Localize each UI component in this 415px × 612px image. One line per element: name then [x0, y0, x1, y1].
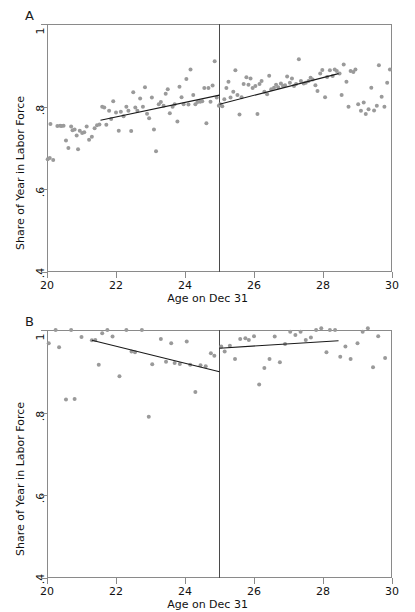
data-point [189, 67, 193, 71]
panel-a-data-layer [0, 0, 415, 306]
data-point [186, 103, 190, 107]
data-point [262, 366, 266, 370]
data-point [361, 330, 365, 334]
data-point [328, 328, 332, 332]
data-point [185, 340, 189, 344]
data-point [80, 335, 84, 339]
data-point [124, 105, 128, 109]
data-point [242, 82, 246, 86]
data-point [97, 363, 101, 367]
data-point [268, 357, 272, 361]
data-point [62, 124, 66, 128]
data-point [117, 374, 121, 378]
data-point [212, 354, 216, 358]
data-point [100, 331, 104, 335]
data-point [309, 335, 313, 339]
data-point [356, 102, 360, 106]
data-point [375, 104, 379, 108]
data-point [159, 100, 163, 104]
data-point [347, 105, 351, 109]
data-point [343, 345, 347, 349]
data-point [180, 95, 184, 99]
data-point [105, 328, 109, 332]
data-point [164, 360, 168, 364]
data-point [107, 109, 111, 113]
data-point [177, 85, 181, 89]
data-point [90, 135, 94, 139]
data-point [224, 86, 228, 90]
data-point [253, 84, 257, 88]
data-point [297, 57, 301, 61]
data-point [353, 67, 357, 71]
data-point [293, 333, 297, 337]
data-point [235, 93, 239, 97]
data-point [102, 105, 106, 109]
data-point [328, 68, 332, 72]
data-point [66, 146, 70, 150]
data-point [204, 121, 208, 125]
data-point [257, 383, 261, 387]
data-point [323, 95, 327, 99]
data-point [48, 156, 52, 160]
data-point [51, 158, 55, 162]
data-point [233, 357, 237, 361]
data-point [369, 86, 373, 90]
data-point [124, 328, 128, 332]
data-point [342, 63, 346, 67]
data-point [319, 326, 323, 330]
data-point [140, 328, 144, 332]
data-point [202, 86, 206, 90]
data-point [64, 139, 68, 143]
data-point [252, 334, 256, 338]
data-point [133, 105, 137, 109]
data-point [290, 77, 294, 81]
data-point [82, 130, 86, 134]
data-point [260, 79, 264, 83]
data-point [169, 341, 173, 345]
data-point [168, 111, 172, 115]
data-point [97, 122, 101, 126]
data-point [138, 96, 142, 100]
data-point [54, 328, 58, 332]
regression-line-left [100, 95, 219, 120]
data-point [304, 338, 308, 342]
data-point [211, 84, 215, 88]
data-point [223, 349, 227, 353]
data-point [150, 362, 154, 366]
data-point [364, 112, 368, 116]
data-point [48, 122, 52, 126]
data-point [191, 93, 195, 97]
data-point [47, 341, 51, 345]
data-point [64, 397, 68, 401]
data-point [247, 338, 251, 342]
data-point [383, 356, 387, 360]
data-point [349, 357, 353, 361]
regression-line-right [220, 74, 339, 105]
data-point [231, 90, 235, 94]
data-point [382, 105, 386, 109]
data-point [200, 99, 204, 103]
data-point [285, 74, 289, 78]
data-point [76, 147, 80, 151]
data-point [388, 67, 392, 71]
data-point [87, 138, 91, 142]
data-point [338, 355, 342, 359]
data-point [222, 97, 226, 101]
data-point [340, 93, 344, 97]
data-point [385, 81, 389, 85]
data-point [166, 87, 170, 91]
data-point [299, 330, 303, 334]
data-point [229, 96, 233, 100]
data-point [209, 351, 213, 355]
data-point [220, 104, 224, 108]
data-point [333, 328, 337, 332]
data-point [213, 59, 217, 63]
data-point [150, 96, 154, 100]
data-point [367, 107, 371, 111]
data-point [238, 113, 242, 117]
data-point [119, 110, 123, 114]
data-point [344, 80, 348, 84]
data-point [111, 335, 115, 339]
data-point [57, 345, 61, 349]
data-point [255, 112, 259, 116]
